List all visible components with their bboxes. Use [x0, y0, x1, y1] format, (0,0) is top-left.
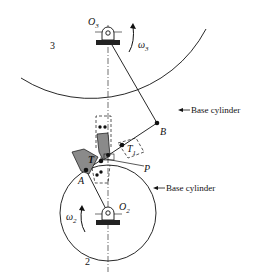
point-a-label: A — [77, 175, 85, 186]
point-b-label: B — [160, 126, 166, 137]
omega3-label: ω3 — [138, 39, 149, 53]
gear-3-label: 3 — [50, 40, 55, 51]
rotation-arrow-omega3-icon — [129, 26, 134, 52]
omega2-label: ω2 — [66, 211, 77, 225]
point-t1-marker — [120, 143, 125, 148]
point-t1-label: T1 — [127, 143, 136, 157]
arrowhead-icon — [130, 23, 136, 29]
pin-dot — [98, 125, 101, 128]
pin-dot — [95, 173, 98, 176]
pin-dot — [99, 170, 102, 173]
leader-arrow-icon — [178, 108, 183, 112]
pivot-o3-icon — [95, 27, 122, 45]
gear-diagram: 3 2 O3 O2 ω3 ω2 B A P T T1 Base cylinder… — [0, 0, 256, 277]
pin-dot — [103, 125, 106, 128]
point-b-marker — [155, 121, 160, 126]
leader-arrow-icon — [153, 186, 158, 190]
pivot-o2-icon — [95, 207, 122, 225]
o2-label: O2 — [119, 201, 130, 215]
arrowhead-icon — [79, 205, 85, 211]
gear-2-label: 2 — [85, 256, 90, 267]
o3-label: O3 — [88, 16, 99, 30]
pitch-point-marker — [106, 153, 110, 157]
point-a-marker — [84, 168, 89, 173]
base-cylinder-bottom-label: Base cylinder — [166, 183, 215, 193]
point-t-marker — [99, 159, 104, 164]
point-t-label: T — [88, 154, 95, 165]
dashed-tooth-bottom — [92, 165, 110, 183]
point-p-label: P — [143, 163, 150, 174]
base-cylinder-top-label: Base cylinder — [191, 105, 240, 115]
